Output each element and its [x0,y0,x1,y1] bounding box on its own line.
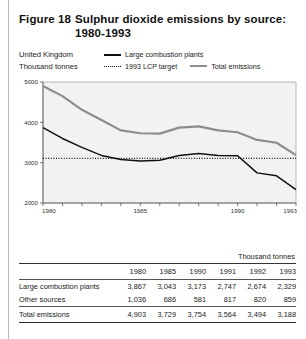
table-cell: 1,036 [116,293,146,307]
table-row-label: Large combustion plants [19,280,116,294]
table-cell: 859 [266,293,296,307]
table-column-header: 1991 [206,264,236,280]
table-total-cell: 3,188 [266,307,296,323]
table-total-cell: 3,494 [236,307,266,323]
table-cell: 820 [236,293,266,307]
table-cell: 581 [176,293,206,307]
table-header-row: 198019851990199119921993 [19,264,296,280]
table-cell: 817 [206,293,236,307]
plot-background [43,82,296,203]
legend-label-lcp-target: 1993 LCP target [125,61,177,73]
table-column-header: 1990 [176,264,206,280]
table-cell: 3,043 [146,280,176,294]
y-axis: 2000300040005000 [24,78,43,206]
chart-legend: Large combustion plants 1993 LCP target … [104,49,260,72]
legend-swatch-solid-line-icon [104,54,121,56]
table-column-header: 1980 [116,264,146,280]
legend-swatch-dotted-line-icon [104,66,121,67]
figure-title-line-2: 1980-1993 [75,26,301,40]
x-axis-tick-label: 1985 [133,207,147,214]
legend-item-large-combustion-plants: Large combustion plants [104,49,203,61]
table-total-cell: 3,754 [176,307,206,323]
page-left-rule [8,0,9,339]
table-total-cell: 3,729 [146,307,176,323]
table-total-row: Total emissions4,9033,7293,7543,5643,494… [19,307,296,323]
table-total-label: Total emissions [19,307,116,323]
emissions-table: 198019851990199119921993 Large combustio… [19,263,296,323]
table-cell: 3,173 [176,280,206,294]
table-total-cell: 4,903 [116,307,146,323]
chart-canvas: 2000300040005000 1980198519901993 [19,78,301,220]
figure-title-text: Sulphur dioxide emissions by source: [75,13,286,25]
subhead-region: United Kingdom [19,49,78,61]
x-axis-tick-label: 1980 [42,207,56,214]
y-axis-tick-label: 5000 [24,78,38,85]
y-axis-tick-label: 3000 [24,159,38,166]
y-axis-tick-label: 2000 [24,199,38,206]
table-total-cell: 3,564 [206,307,236,323]
y-axis-tick-label: 4000 [24,119,38,126]
table-row: Other sources1,036686581817820859 [19,293,296,307]
table-body: Large combustion plants3,8673,0433,1732,… [19,280,296,307]
x-axis-tick-label: 1990 [231,207,245,214]
legend-label-large-combustion-plants: Large combustion plants [125,49,203,61]
table-cell: 2,674 [236,280,266,294]
figure-title-line-1: Figure 18Sulphur dioxide emissions by so… [19,12,301,26]
legend-item-lcp-target: 1993 LCP target [104,61,177,73]
figure-number: Figure 18 [19,12,75,26]
legend-row-2: 1993 LCP target Total emissions [104,61,260,73]
table-column-header: 1993 [266,264,296,280]
table-row-label: Other sources [19,293,116,307]
figure-page: Figure 18Sulphur dioxide emissions by so… [0,0,306,339]
x-axis-tick-label: 1993 [283,207,297,214]
table-cell: 686 [146,293,176,307]
line-chart: 2000300040005000 1980198519901993 [19,78,301,220]
data-table-block: Thousand tonnes 198019851990199119921993… [19,252,296,323]
legend-label-total-emissions: Total emissions [211,61,260,73]
table-column-header: 1985 [146,264,176,280]
legend-swatch-gray-line-icon [190,65,207,67]
table-row: Large combustion plants3,8673,0433,1732,… [19,280,296,294]
table-footer: Total emissions4,9033,7293,7543,5643,494… [19,307,296,323]
x-axis: 1980198519901993 [42,203,298,214]
legend-item-total-emissions: Total emissions [190,61,260,73]
table-cell: 3,867 [116,280,146,294]
table-header-blank [19,264,116,280]
legend-row-1: Large combustion plants [104,49,260,61]
subhead-units: Thousand tonnes [19,61,78,73]
chart-subhead: United Kingdom Thousand tonnes [19,49,78,72]
figure-title-block: Figure 18Sulphur dioxide emissions by so… [19,12,301,40]
table-cell: 2,747 [206,280,236,294]
table-cell: 2,329 [266,280,296,294]
table-units-label: Thousand tonnes [19,252,296,263]
table-column-header: 1992 [236,264,266,280]
